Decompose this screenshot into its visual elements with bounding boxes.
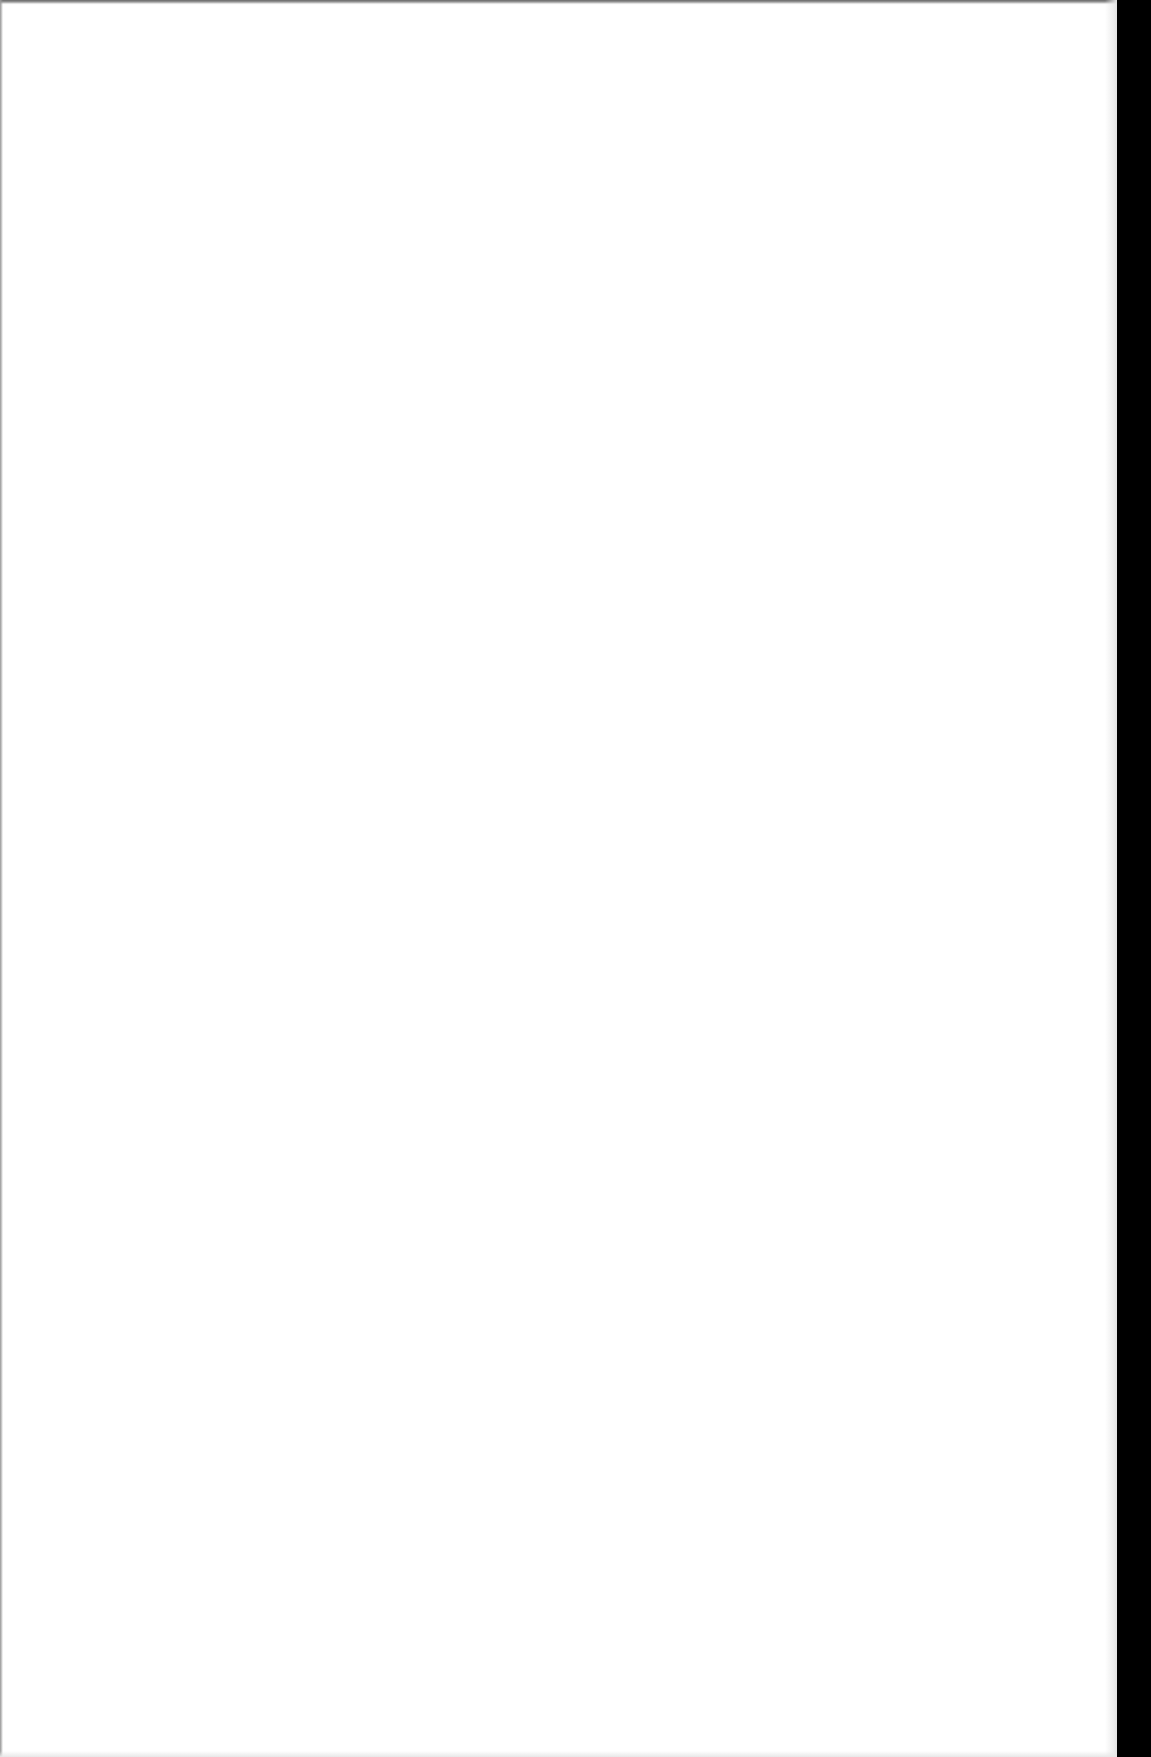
page-edge-shadow — [1105, 0, 1117, 1757]
bleed-through-text — [280, 330, 580, 450]
bottom-scan-edge — [0, 1751, 1117, 1757]
blank-page — [0, 0, 1117, 1757]
left-scan-edge — [0, 0, 3, 1757]
scanner-border — [1117, 0, 1151, 1757]
top-scan-edge — [0, 0, 1117, 4]
